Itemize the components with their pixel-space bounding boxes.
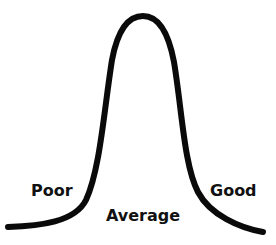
average-label: Average [106, 208, 180, 224]
poor-label: Poor [31, 183, 73, 199]
bell-curve-diagram: Poor Average Good [0, 0, 276, 245]
good-label: Good [210, 183, 257, 199]
